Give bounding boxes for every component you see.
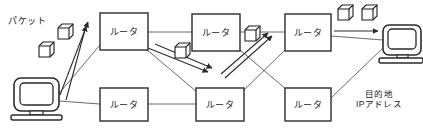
source-computer[interactable]	[11, 78, 62, 120]
packet-label: パケット	[8, 16, 46, 26]
link-top1-to-bottom2	[146, 49, 197, 92]
packet-cube-3	[175, 43, 190, 58]
router-bottom-2-label: ルータ	[206, 100, 235, 110]
router-top-2[interactable]: ルータ	[192, 14, 240, 51]
link-top2-to-bottom3	[240, 50, 287, 90]
router-bottom-3[interactable]: ルータ	[285, 88, 331, 121]
destination-computer[interactable]	[379, 25, 423, 63]
packet-cube-6	[362, 5, 377, 20]
packet-cube-4	[245, 26, 260, 41]
router-top-3[interactable]: ルータ	[285, 14, 331, 51]
router-nodes: ルータ ルータ ルータ ルータ ルータ ルータ	[100, 13, 331, 121]
packet-cube-2	[39, 42, 54, 57]
link-top3-to-destination	[331, 36, 383, 40]
router-bottom-3-label: ルータ	[294, 100, 323, 110]
packet-cube-5	[338, 5, 353, 20]
link-bottom2-to-top3	[243, 49, 286, 91]
router-top-1[interactable]: ルータ	[100, 13, 148, 50]
destination-label-line-2: IPアドレス	[356, 100, 402, 110]
router-bottom-1[interactable]: ルータ	[100, 88, 148, 121]
packet-cube-1	[58, 24, 73, 39]
router-top-1-label: ルータ	[110, 27, 139, 37]
router-top-3-label: ルータ	[294, 28, 323, 38]
network-packet-routing-diagram: ルータ ルータ ルータ ルータ ルータ ルータ	[0, 0, 423, 133]
router-bottom-1-label: ルータ	[110, 100, 139, 110]
router-bottom-2[interactable]: ルータ	[196, 88, 244, 121]
router-top-2-label: ルータ	[202, 28, 231, 38]
diagram-canvas: ルータ ルータ ルータ ルータ ルータ ルータ	[0, 0, 423, 133]
link-source-to-router-bottom-1	[59, 101, 100, 104]
destination-label: 目的地 IPアドレス	[356, 90, 402, 110]
